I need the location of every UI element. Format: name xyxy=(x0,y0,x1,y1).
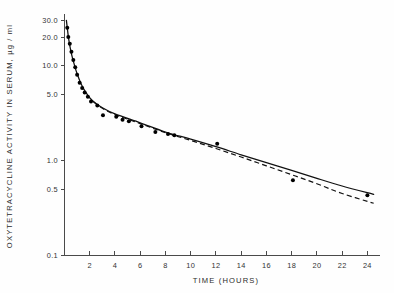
fitted-curve-solid xyxy=(66,20,373,194)
x-tick-label: 24 xyxy=(363,261,372,270)
data-point xyxy=(66,35,70,39)
data-point xyxy=(127,119,131,123)
chart-figure: 0.10.51.05.010.020.030.0 246810121416182… xyxy=(0,0,394,293)
y-tick-label: 0.5 xyxy=(47,185,58,194)
x-tick-label: 14 xyxy=(237,261,246,270)
x-axis-tick-labels: 24681012141618202224 xyxy=(88,261,372,270)
x-tick-label: 10 xyxy=(186,261,195,270)
y-axis-group: 0.10.51.05.010.020.030.0 xyxy=(42,14,64,260)
data-point xyxy=(153,130,157,134)
x-tick-label: 16 xyxy=(262,261,271,270)
x-tick-label: 2 xyxy=(88,261,92,270)
data-point xyxy=(80,86,84,90)
x-tick-label: 12 xyxy=(211,261,220,270)
x-tick-label: 6 xyxy=(138,261,142,270)
x-tick-label: 18 xyxy=(287,261,296,270)
x-tick-label: 8 xyxy=(163,261,167,270)
data-point xyxy=(73,65,77,69)
data-point xyxy=(78,81,82,85)
y-tick-label: 5.0 xyxy=(47,90,58,99)
x-tick-label: 20 xyxy=(312,261,321,270)
data-point xyxy=(65,26,69,30)
data-point xyxy=(365,193,369,197)
data-point xyxy=(291,178,295,182)
y-tick-label: 0.1 xyxy=(47,251,58,260)
y-axis-title: OXYTETRACYCLINE ACTIVITY IN SERUM, µg / … xyxy=(5,24,14,248)
y-tick-label: 1.0 xyxy=(47,156,58,165)
y-tick-label: 20.0 xyxy=(42,33,58,42)
x-axis-group: 24681012141618202224 xyxy=(65,251,381,271)
data-point xyxy=(68,42,72,46)
data-point xyxy=(166,132,170,136)
y-tick-label: 30.0 xyxy=(42,16,58,25)
data-point xyxy=(215,142,219,146)
semilog-decay-plot: 0.10.51.05.010.020.030.0 246810121416182… xyxy=(0,0,394,293)
data-point xyxy=(139,124,143,128)
x-axis-ticks xyxy=(90,251,368,256)
data-point xyxy=(71,58,75,62)
y-tick-label: 10.0 xyxy=(42,61,58,70)
y-axis-tick-labels: 0.10.51.05.010.020.030.0 xyxy=(42,16,58,260)
data-point xyxy=(101,113,105,117)
y-axis-ticks xyxy=(61,20,65,255)
data-point xyxy=(69,50,73,54)
data-point xyxy=(114,115,118,119)
x-tick-label: 22 xyxy=(338,261,347,270)
data-point xyxy=(75,73,79,77)
x-axis-title: TIME (HOURS) xyxy=(193,276,260,285)
data-point xyxy=(95,104,99,108)
data-point xyxy=(121,118,125,122)
data-point xyxy=(89,99,93,103)
data-point xyxy=(172,133,176,137)
data-point xyxy=(86,95,90,99)
x-tick-label: 4 xyxy=(113,261,117,270)
data-point xyxy=(83,91,87,95)
